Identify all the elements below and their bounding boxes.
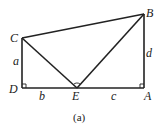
segment-label-b: b <box>39 89 45 103</box>
segment-CE <box>22 38 77 88</box>
point-label-C: C <box>10 31 19 45</box>
point-label-B: B <box>146 6 154 20</box>
segment-label-d: d <box>146 46 153 60</box>
figure-caption: (a) <box>73 111 86 124</box>
geometry-figure: C B D E A a b c d (a) <box>0 0 162 134</box>
point-label-D: D <box>8 82 18 96</box>
segment-label-c: c <box>111 89 117 103</box>
point-label-E: E <box>71 89 80 103</box>
point-label-A: A <box>143 89 152 103</box>
segment-label-a: a <box>13 54 19 68</box>
